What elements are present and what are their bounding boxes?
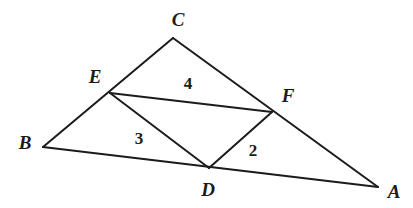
vertex-label-d: D <box>201 180 215 199</box>
vertex-label-e: E <box>89 67 102 86</box>
region-label-2: 2 <box>249 142 258 159</box>
diagram-canvas <box>0 0 413 208</box>
vertex-label-f: F <box>282 86 295 105</box>
segment-group <box>43 38 378 187</box>
geometry-figure: C E F B D A 4 3 2 <box>0 0 413 208</box>
vertex-label-c: C <box>172 10 185 29</box>
midsegment-df <box>209 112 272 168</box>
vertex-label-a: A <box>388 182 401 201</box>
side-bc <box>43 38 173 147</box>
vertex-label-b: B <box>19 133 32 152</box>
region-label-4: 4 <box>184 75 193 92</box>
region-label-3: 3 <box>135 130 144 147</box>
midsegment-ef <box>110 93 272 112</box>
